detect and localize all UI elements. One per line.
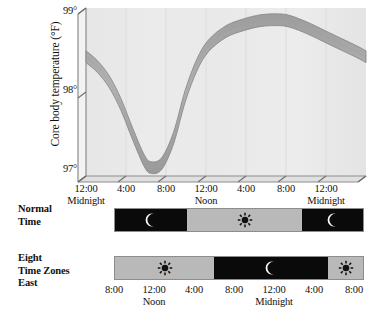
moon-icon bbox=[143, 212, 159, 228]
moon-icon bbox=[325, 212, 341, 228]
eight-label-line-1: Time Zones bbox=[18, 265, 70, 278]
segment-night-3 bbox=[214, 257, 328, 279]
temperature-chart: Core body temperature (°F) 99° 98° 97° bbox=[0, 0, 374, 196]
eight-label-line-0: Eight bbox=[18, 252, 70, 265]
sun-icon bbox=[157, 260, 173, 276]
bar2-tick-sub-noon: Noon bbox=[124, 296, 184, 307]
normal-time-label-line-0: Normal bbox=[18, 203, 52, 216]
segment-day-3 bbox=[328, 257, 363, 279]
bar2-tick-label-6: 8:00 bbox=[331, 284, 374, 295]
segment-day-1 bbox=[187, 209, 302, 231]
x-tick-sub-midnight-start: Midnight bbox=[56, 195, 116, 206]
eight-time-zones-east-label: Eight Time Zones East bbox=[18, 252, 70, 290]
x-tick-sub-noon: Noon bbox=[176, 195, 236, 206]
bar2-tick-sub-midnight: Midnight bbox=[244, 296, 304, 307]
segment-night-2 bbox=[302, 209, 363, 231]
eight-time-zones-east-bar bbox=[114, 256, 364, 280]
segment-night-1 bbox=[115, 209, 187, 231]
x-tick-label-6: 12:00 bbox=[303, 183, 349, 194]
normal-time-label-line-1: Time bbox=[18, 216, 52, 229]
sun-icon bbox=[338, 260, 354, 276]
sun-icon bbox=[237, 212, 253, 228]
plot-canvas bbox=[0, 0, 374, 196]
eight-label-line-2: East bbox=[18, 277, 70, 290]
normal-time-label: Normal Time bbox=[18, 203, 52, 228]
x-tick-sub-midnight-end: Midnight bbox=[296, 195, 356, 206]
segment-day-2 bbox=[115, 257, 214, 279]
normal-time-bar bbox=[114, 208, 364, 232]
moon-icon bbox=[263, 260, 279, 276]
